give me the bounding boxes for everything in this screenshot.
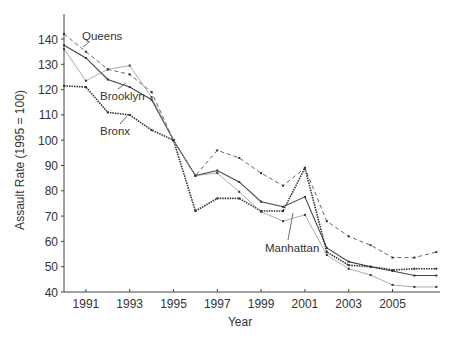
axes [64,14,440,292]
data-point [194,175,196,177]
data-point [238,181,240,183]
data-point [107,78,109,80]
data-point [348,235,350,237]
label-bronx: Bronx [100,125,130,137]
data-point [304,196,306,198]
series-bronx [64,86,436,270]
series-lines [63,33,437,288]
data-point [348,264,350,266]
data-point [260,211,262,213]
assault-rate-chart: 405060708090100110120130140 199119931995… [0,0,455,342]
data-point [85,57,87,59]
data-point [348,261,350,263]
y-tick-label: 130 [38,58,58,72]
y-tick-label: 80 [45,184,59,198]
data-point [63,48,65,50]
data-point [413,286,415,288]
data-point [63,33,65,35]
data-point [238,157,240,159]
data-point [282,220,284,222]
x-tick-label: 1999 [248,297,275,311]
data-point [392,269,394,271]
x-tick-label: 1993 [116,297,143,311]
data-point [238,191,240,193]
y-tick-label: 60 [45,235,59,249]
data-point [63,85,65,87]
data-point [413,275,415,277]
y-tick-label: 100 [38,134,58,148]
x-tick-label: 2005 [379,297,406,311]
y-tick-label: 40 [45,286,59,300]
data-point [260,201,262,203]
data-point [413,257,415,259]
data-point [370,266,372,268]
series-brooklyn [64,45,436,275]
leader-queens [83,42,89,47]
x-tick-label: 2001 [292,297,319,311]
label-brooklyn: Brooklyn [100,90,145,102]
data-point [151,96,153,98]
x-axis-title: Year [228,315,252,329]
x-tick-label: 1991 [73,297,100,311]
data-point [392,257,394,259]
data-point [260,172,262,174]
data-point [216,149,218,151]
label-manhattan: Manhattan [265,242,319,254]
data-point [151,129,153,131]
y-ticks: 405060708090100110120130140 [38,33,64,300]
y-tick-label: 110 [39,108,58,122]
data-point [107,111,109,113]
data-point [282,185,284,187]
data-point [85,51,87,53]
data-point [129,86,131,88]
data-point [129,73,131,75]
data-point [282,210,284,212]
data-point [435,251,437,253]
x-tick-label: 1997 [204,297,231,311]
data-point [63,44,65,46]
y-axis-title: Assault Rate (1995 = 100) [13,90,27,230]
data-point [370,244,372,246]
data-point [107,68,109,70]
data-point [85,86,87,88]
data-point [216,172,218,174]
data-point [304,214,306,216]
data-point [413,268,415,270]
data-point [435,275,437,277]
data-point [348,268,350,270]
chart-svg: 405060708090100110120130140 199119931995… [0,0,455,342]
data-point [151,91,153,93]
leader-bronx [120,116,127,124]
data-point [238,197,240,199]
y-tick-label: 70 [45,210,59,224]
data-point [85,80,87,82]
data-point [392,284,394,286]
data-point [435,268,437,270]
data-point [216,170,218,172]
data-point [282,206,284,208]
data-point [129,65,131,67]
data-point [326,220,328,222]
leader-manhattan [288,213,293,240]
data-point [435,286,437,288]
x-tick-label: 2003 [335,297,362,311]
y-tick-label: 50 [45,260,59,274]
label-queens: Queens [82,30,123,42]
data-point [370,274,372,276]
data-point [173,139,175,141]
data-point [216,197,218,199]
data-point [304,167,306,169]
y-tick-label: 120 [38,83,58,97]
data-point [326,254,328,256]
y-tick-label: 140 [38,33,58,47]
data-point [194,210,196,212]
data-point [326,251,328,253]
data-point [129,114,131,116]
x-tick-label: 1995 [160,297,187,311]
y-tick-label: 90 [45,159,59,173]
